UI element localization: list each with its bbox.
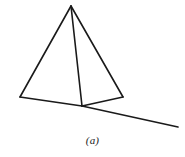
pyramid-left-edge [20,6,71,97]
figure-panel: (a) [0,0,185,157]
ground-line [82,106,178,127]
figure-caption: (a) [0,133,185,147]
pyramid-base-right-segment [82,97,123,106]
pyramid-base-left-segment [20,97,82,106]
